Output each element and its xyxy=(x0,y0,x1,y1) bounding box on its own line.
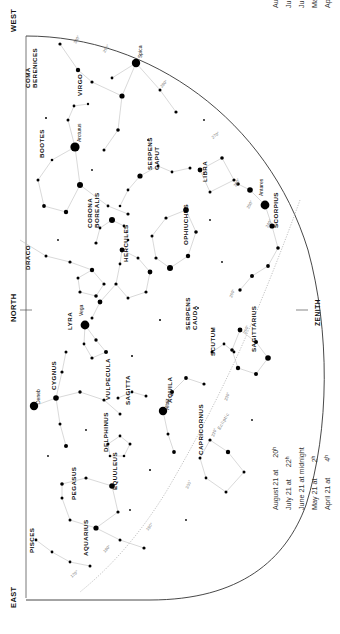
label-cygnus: CYGNUS xyxy=(50,361,57,390)
svg-text:250°: 250° xyxy=(242,324,250,334)
star-chart-page: Ecliptic xyxy=(0,0,340,634)
label-scorpius: SCORPIUS xyxy=(272,192,279,228)
label-ophiuchus: OPHIUCHUS xyxy=(182,204,189,245)
legend-top-line-0: April 6 at 5ʰ xyxy=(323,0,332,8)
label-sagittarius: SAGITTARIUS xyxy=(250,306,257,352)
svg-text:180°: 180° xyxy=(102,544,112,554)
ecliptic-line xyxy=(80,200,300,592)
starname-deneb: Deneb xyxy=(35,389,41,404)
svg-text:190°: 190° xyxy=(145,521,154,531)
legend-top-line-4: August 6 at 21ʰ xyxy=(271,0,280,8)
label-pegasus: PEGASUS xyxy=(70,467,77,500)
cardinal-north: NORTH xyxy=(9,293,18,322)
label-serpens-cauda: SERPENSCAUDA xyxy=(184,297,198,330)
svg-text:220°: 220° xyxy=(210,427,218,437)
legend-bottom-line-1: May 21 at 2ʰ xyxy=(310,455,319,510)
legend-bottom-line-2: June 21 at midnight xyxy=(297,447,306,510)
cardinal-labels: WEST NORTH EAST ZENITH xyxy=(9,9,321,608)
star-chart-canvas: Ecliptic xyxy=(0,0,340,634)
label-capricornus: CAPRICORNUS xyxy=(197,404,204,455)
cardinal-east: EAST xyxy=(9,586,18,608)
legend-top-right: April 6 at 5ʰ May 6 at 3ʰ June 6 at 1ʰ J… xyxy=(271,0,332,8)
degree-labels: 300° 290° 280° 270° 260° 250° 240° 260° … xyxy=(69,34,273,579)
label-draco: DRACO xyxy=(24,245,31,270)
label-sagitta: SAGITTA xyxy=(124,375,131,405)
svg-text:300°: 300° xyxy=(72,34,81,44)
legend-top-line-2: June 6 at 1ʰ xyxy=(297,0,306,8)
legend-bottom-line-4: August 21 at 20ʰ xyxy=(271,447,280,510)
label-libra: LIBRA xyxy=(201,161,208,182)
constellation-labels: COMABERENICES VIRGO BOOTES CORONABOREALI… xyxy=(24,48,279,556)
label-vulpecula: VULPECULA xyxy=(104,358,111,400)
label-bootes: BOOTES xyxy=(38,129,45,158)
svg-text:170°: 170° xyxy=(69,569,79,579)
starname-arcturus: Arcturus xyxy=(76,123,82,142)
legend-bottom-line-3: July 21 at 22ʰ xyxy=(284,456,293,510)
starname-vega: Vega xyxy=(78,304,84,316)
label-virgo: VIRGO xyxy=(76,74,83,96)
svg-text:230°: 230° xyxy=(223,391,231,401)
starname-antares: Antares xyxy=(258,178,264,196)
legend-bottom-line-0: April 21 at 4ʰ xyxy=(323,455,332,510)
cardinal-west: WEST xyxy=(9,9,18,32)
constellation-lines xyxy=(20,44,278,566)
legend-top-line-1: May 6 at 3ʰ xyxy=(310,0,319,8)
starname-spica: Spica xyxy=(137,45,143,58)
svg-text:270°: 270° xyxy=(211,130,221,139)
cardinal-zenith: ZENITH xyxy=(314,299,321,326)
svg-text:260°: 260° xyxy=(228,288,236,298)
label-aquarius: AQUARIUS xyxy=(82,519,89,556)
ecliptic-label: Ecliptic xyxy=(217,412,231,431)
label-lyra: LYRA xyxy=(66,312,73,330)
label-hercules: HERCULES xyxy=(122,224,129,262)
label-scutum: SCUTUM xyxy=(209,327,216,356)
legend-top-line-3: July 6 at 23ʰ xyxy=(284,0,293,8)
legend-bottom-right: April 21 at 4ʰ May 21 at 2ʰ June 21 at m… xyxy=(271,447,332,510)
ecliptic-group: Ecliptic xyxy=(80,200,300,592)
label-pisces: PISCES xyxy=(28,528,35,553)
svg-text:200°: 200° xyxy=(184,479,192,489)
label-corona-borealis: CORONABOREALIS xyxy=(86,192,100,228)
label-serpens-caput: SERPENSCAPUT xyxy=(146,137,160,170)
stars-group xyxy=(30,42,280,567)
label-equuleus: EQUULEUS xyxy=(111,452,118,490)
label-delphinus: DELPHINUS xyxy=(102,412,109,452)
starname-altair: Altair xyxy=(164,398,170,410)
star-name-labels: Spica Arcturus Antares Vega Deneb Altair xyxy=(35,45,264,410)
svg-text:250°: 250° xyxy=(245,199,254,209)
